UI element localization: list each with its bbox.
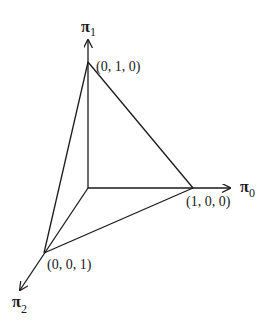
vertex-label-001: (0, 0, 1) [47, 257, 92, 273]
svg-text:1: 1 [90, 25, 96, 39]
svg-text:π: π [240, 178, 249, 195]
axis-label-pi0: π 0 [240, 178, 255, 200]
svg-text:π: π [81, 18, 90, 35]
simplex-diagram: π 1 π 0 π 2 (0, 1, 0) (1, 0, 0) (0, 0, 1… [0, 0, 270, 331]
edge-010-100 [88, 62, 193, 188]
axis-label-pi2: π 2 [12, 293, 27, 316]
axis-pi2 [20, 188, 88, 290]
svg-text:0: 0 [249, 186, 255, 200]
svg-text:2: 2 [21, 302, 27, 316]
edge-001-010 [44, 62, 88, 253]
vertex-label-010: (0, 1, 0) [96, 59, 141, 75]
vertex-label-100: (1, 0, 0) [186, 194, 231, 210]
axis-label-pi1: π 1 [81, 18, 96, 39]
svg-text:π: π [12, 293, 21, 310]
